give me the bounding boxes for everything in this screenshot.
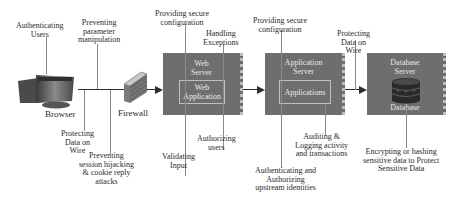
- browser-laptop-icon: [16, 73, 78, 109]
- arrowhead-to-web-server: [155, 86, 163, 94]
- annotation-authenticating-upstream: Authenticating and Authorizing upstream …: [255, 167, 316, 193]
- annotation-preventing-session-hijacking: Preventing session hijacking & cookie re…: [79, 152, 134, 186]
- annotation-encrypting-hashing: Encrypting or hashing sensitive data to …: [363, 148, 439, 174]
- annotation-handling-exceptions: Handling Exceptions: [203, 30, 239, 47]
- leader-preventing-session: [110, 90, 111, 154]
- leader-auditing: [325, 105, 326, 135]
- database-label: Database: [367, 103, 443, 112]
- database-cylinder-icon: [389, 78, 423, 104]
- leader-encrypting: [406, 108, 407, 148]
- leader-providing-config-2: [281, 30, 282, 168]
- application-server-box: Application Server Applications: [265, 53, 345, 115]
- annotation-validating-input: Validating Input: [162, 153, 195, 170]
- leader-protecting-wire-1: [84, 90, 85, 130]
- annotation-protecting-data-on-wire-2: Protecting Data on Wire: [337, 30, 370, 56]
- annotation-providing-secure-config-2: Providing secure configuration: [253, 17, 307, 34]
- leader-authenticating-users: [46, 37, 47, 74]
- leader-preventing-param: [97, 44, 98, 89]
- browser-label: Browser: [45, 110, 76, 119]
- annotation-providing-secure-config-1: Providing secure configuration: [155, 10, 209, 27]
- annotation-authorizing-users: Authorizing users: [197, 135, 236, 152]
- arrowhead-to-app-server: [257, 86, 265, 94]
- database-server-title: Database Server: [367, 58, 443, 76]
- arrowhead-to-db-server: [359, 86, 367, 94]
- annotation-authenticating-users: Authenticating Users: [16, 22, 64, 39]
- applications-box: Applications: [279, 80, 331, 104]
- database-server-box: Database Server Database: [367, 53, 446, 115]
- application-server-title: Application Server: [265, 58, 342, 76]
- web-server-box: Web Server Web Application: [163, 53, 243, 115]
- web-server-title: Web Server: [163, 59, 240, 77]
- annotation-preventing-parameter-manipulation: Preventing parameter manipulation: [78, 19, 120, 45]
- annotation-auditing-logging: Auditing & Logging activity and transact…: [295, 133, 348, 159]
- firewall-label: Firewall: [118, 109, 148, 118]
- firewall-icon: [121, 70, 149, 104]
